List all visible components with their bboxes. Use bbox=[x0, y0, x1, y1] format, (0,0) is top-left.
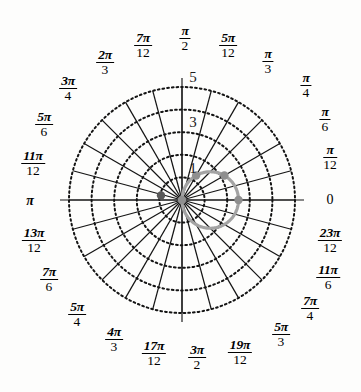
fraction-numerator: 5π bbox=[272, 320, 290, 335]
fraction-denominator: 12 bbox=[21, 164, 45, 178]
angular-label-theta-pi-2: π2 bbox=[179, 24, 190, 52]
fraction-denominator: 3 bbox=[105, 340, 123, 354]
angular-label-theta-5pi-12: 5π12 bbox=[219, 31, 237, 59]
fraction-numerator: 17π bbox=[142, 339, 166, 354]
grid-spoke-15 bbox=[102, 200, 182, 280]
angular-label-theta-19pi-12: 19π12 bbox=[228, 338, 252, 366]
fraction-denominator: 12 bbox=[219, 46, 237, 60]
fraction-numerator: 3π bbox=[59, 74, 77, 89]
fraction-denominator: 2 bbox=[188, 358, 206, 372]
angular-label-theta-pi-12: π12 bbox=[323, 143, 337, 171]
fraction-numerator: 7π bbox=[40, 265, 58, 280]
fraction-denominator: 3 bbox=[272, 335, 290, 349]
fraction-numerator: 5π bbox=[35, 110, 53, 125]
angular-label-theta-2pi-3: 2π3 bbox=[96, 48, 114, 76]
angular-label-theta-5pi-4: 5π4 bbox=[68, 300, 86, 328]
point-theta-30 bbox=[220, 171, 228, 179]
fraction-denominator: 6 bbox=[319, 120, 330, 134]
fraction-denominator: 6 bbox=[40, 280, 58, 294]
point-theta-0 bbox=[234, 196, 242, 204]
fraction-denominator: 4 bbox=[59, 89, 77, 103]
fraction-numerator: 7π bbox=[301, 294, 319, 309]
fraction-numerator: 13π bbox=[22, 226, 46, 241]
angular-label-theta-7pi-12: 7π12 bbox=[134, 31, 152, 59]
angular-label-theta-17pi-12: 17π12 bbox=[142, 339, 166, 367]
angular-label-theta-3pi-2: 3π2 bbox=[188, 343, 206, 371]
angular-label-theta-7pi-4: 7π4 bbox=[301, 294, 319, 322]
radial-label-r-5: 5 bbox=[189, 70, 197, 85]
fraction-numerator: 11π bbox=[21, 149, 45, 164]
fraction-denominator: 3 bbox=[262, 62, 273, 76]
grid-spoke-21 bbox=[182, 200, 262, 280]
angular-label-theta-23pi-12: 23π12 bbox=[318, 226, 342, 254]
angular-label-theta-5pi-6: 5π6 bbox=[35, 110, 53, 138]
fraction-denominator: 12 bbox=[318, 241, 342, 255]
fraction-numerator: π bbox=[300, 71, 311, 86]
angular-label-theta-pi-6: π6 bbox=[319, 105, 330, 133]
fraction-denominator: 4 bbox=[301, 309, 319, 323]
fraction-denominator: 12 bbox=[323, 158, 337, 172]
radial-label-r-1: 1 bbox=[189, 161, 197, 176]
angular-label-theta-4pi-3: 4π3 bbox=[105, 325, 123, 353]
angular-label-theta-0: 0 bbox=[327, 193, 334, 207]
fraction-numerator: 7π bbox=[134, 31, 152, 46]
grid-spoke-8 bbox=[126, 102, 183, 200]
angular-label-text: 0 bbox=[327, 193, 334, 207]
angular-label-theta-pi-4: π4 bbox=[300, 71, 311, 99]
fraction-denominator: 4 bbox=[300, 86, 311, 100]
angular-label-theta-11pi-12: 11π12 bbox=[21, 149, 45, 177]
point-origin bbox=[178, 196, 186, 204]
fraction-numerator: 5π bbox=[219, 31, 237, 46]
polar-grid-svg bbox=[0, 0, 361, 392]
fraction-numerator: π bbox=[262, 47, 273, 62]
angular-label-theta-3pi-4: 3π4 bbox=[59, 74, 77, 102]
fraction-denominator: 12 bbox=[142, 354, 166, 368]
fraction-numerator: 2π bbox=[96, 48, 114, 63]
fraction-numerator: 3π bbox=[188, 343, 206, 358]
fraction-denominator: 12 bbox=[134, 46, 152, 60]
point-theta-170 bbox=[157, 191, 165, 199]
fraction-numerator: 19π bbox=[228, 338, 252, 353]
grid-spoke-16 bbox=[126, 200, 183, 298]
angular-label-theta-pi: π bbox=[26, 194, 34, 208]
fraction-numerator: π bbox=[323, 143, 337, 158]
fraction-numerator: 4π bbox=[105, 325, 123, 340]
fraction-numerator: π bbox=[319, 105, 330, 120]
grid-spoke-9 bbox=[102, 120, 182, 200]
angular-label-theta-pi-3: π3 bbox=[262, 47, 273, 75]
angular-label-theta-11pi-6: 11π6 bbox=[316, 263, 340, 291]
angular-label-theta-13pi-12: 13π12 bbox=[22, 226, 46, 254]
fraction-denominator: 2 bbox=[179, 39, 190, 53]
fraction-numerator: 11π bbox=[316, 263, 340, 278]
fraction-denominator: 6 bbox=[316, 278, 340, 292]
angular-label-text: π bbox=[26, 194, 34, 208]
fraction-denominator: 4 bbox=[68, 315, 86, 329]
fraction-denominator: 12 bbox=[22, 241, 46, 255]
fraction-numerator: π bbox=[179, 24, 190, 39]
angular-label-theta-5pi-3: 5π3 bbox=[272, 320, 290, 348]
fraction-numerator: 23π bbox=[318, 226, 342, 241]
radial-label-r-3: 3 bbox=[189, 115, 197, 130]
fraction-denominator: 12 bbox=[228, 353, 252, 367]
polar-plot-figure: 0π12π6π4π35π12π27π122π33π45π611π12π13π12… bbox=[0, 0, 361, 392]
fraction-denominator: 3 bbox=[96, 63, 114, 77]
fraction-denominator: 6 bbox=[35, 125, 53, 139]
angular-label-theta-7pi-6: 7π6 bbox=[40, 265, 58, 293]
fraction-numerator: 5π bbox=[68, 300, 86, 315]
